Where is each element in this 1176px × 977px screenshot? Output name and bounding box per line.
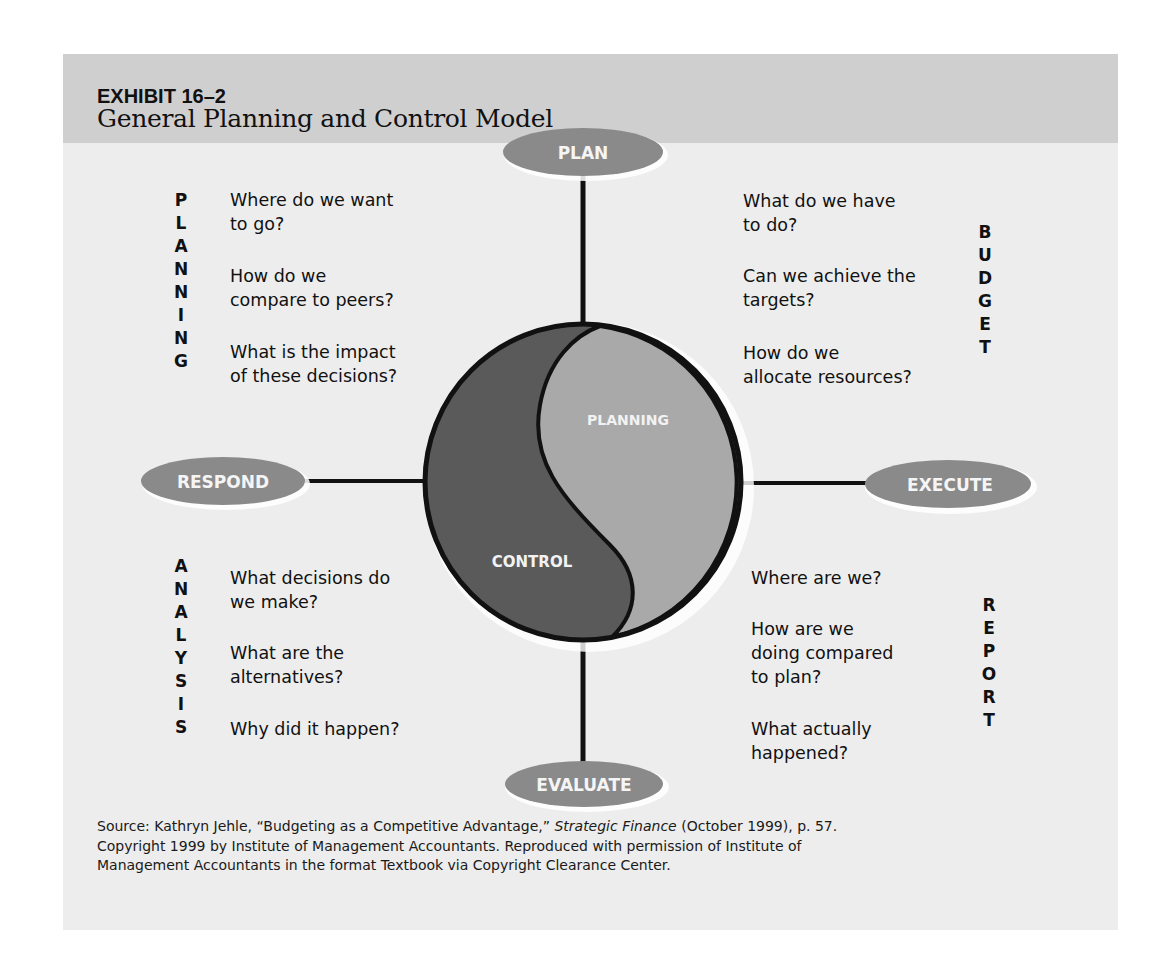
acronym-letter: N (171, 281, 191, 304)
execute-label: EXECUTE (907, 475, 993, 495)
planning-question-3: What is the impact of these decisions? (230, 340, 397, 388)
acronym-letter: N (171, 327, 191, 350)
analysis-question-2: What are the alternatives? (230, 641, 344, 689)
acronym-letter: N (171, 258, 191, 281)
acronym-letter: R (979, 686, 999, 709)
budget-question-3: How do we allocate resources? (743, 341, 912, 389)
respond-label: RESPOND (177, 472, 269, 492)
node-evaluate: EVALUATE (505, 761, 669, 812)
node-plan: PLAN (503, 128, 668, 181)
acronym-letter: S (171, 716, 191, 739)
acronym-letter: A (171, 235, 191, 258)
evaluate-label: EVALUATE (536, 775, 631, 795)
report-question-3: What actually happened? (751, 717, 872, 765)
acronym-letter: P (171, 189, 191, 212)
acronym-letter: G (975, 290, 995, 313)
acronym-letter: S (171, 670, 191, 693)
acronym-letter: O (979, 663, 999, 686)
planning-label: PLANNING (587, 412, 669, 428)
node-respond: RESPOND (141, 457, 310, 510)
acronym-letter: G (171, 350, 191, 373)
acronym-letter: A (171, 555, 191, 578)
control-label: CONTROL (492, 553, 573, 571)
acronym-letter: L (171, 212, 191, 235)
acronym-letter: Y (171, 647, 191, 670)
acronym-letter: T (979, 709, 999, 732)
acronym-letter: N (171, 578, 191, 601)
acronym-letter: T (975, 336, 995, 359)
analysis-question-1: What decisions do we make? (230, 566, 390, 614)
analysis-question-3: Why did it happen? (230, 717, 399, 741)
acronym-letter: D (975, 267, 995, 290)
acronym-letter: I (171, 304, 191, 327)
acronym-letter: P (979, 640, 999, 663)
publication-title: Strategic Finance (554, 818, 676, 834)
report-question-1: Where are we? (751, 566, 882, 590)
source-line-3: Management Accountants in the format Tex… (97, 856, 1097, 876)
budget-question-1: What do we have to do? (743, 189, 896, 237)
source-citation: Source: Kathryn Jehle, “Budgeting as a C… (97, 817, 1097, 876)
source-line-2: Copyright 1999 by Institute of Managemen… (97, 837, 1097, 857)
report-question-2: How are we doing compared to plan? (751, 617, 893, 689)
plan-label: PLAN (558, 143, 609, 163)
acronym-letter: I (171, 693, 191, 716)
source-label: Source: (97, 818, 150, 834)
acronym-letter: E (975, 313, 995, 336)
acronym-letter: E (979, 617, 999, 640)
acronym-letter: A (171, 601, 191, 624)
source-line-1: Source: Kathryn Jehle, “Budgeting as a C… (97, 817, 1097, 837)
node-execute: EXECUTE (865, 460, 1037, 514)
planning-control-circle: PLANNING CONTROL (425, 324, 741, 640)
acronym-letter: L (171, 624, 191, 647)
planning-question-1: Where do we want to go? (230, 188, 393, 236)
acronym-letter: B (975, 221, 995, 244)
budget-question-2: Can we achieve the targets? (743, 264, 916, 312)
acronym-letter: R (979, 594, 999, 617)
planning-question-2: How do we compare to peers? (230, 264, 394, 312)
acronym-letter: U (975, 244, 995, 267)
